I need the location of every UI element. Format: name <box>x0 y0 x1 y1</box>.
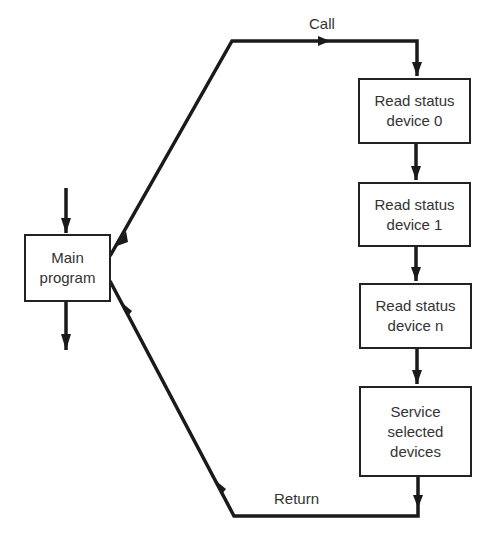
main-program-line-2: program <box>40 268 96 288</box>
return-arrow-head-down <box>413 495 423 508</box>
readn-line-2: device n <box>375 316 455 336</box>
service-line-3: devices <box>388 442 444 462</box>
call-arrow-head-top <box>318 36 330 46</box>
read1-line-2: device 1 <box>374 215 454 235</box>
return-label: Return <box>274 490 319 507</box>
call-arrow-head-down <box>412 62 422 76</box>
service-line-1: Service <box>388 402 444 422</box>
read1-line-1: Read status <box>374 195 454 215</box>
call-label: Call <box>309 15 335 32</box>
entry-arrow-head <box>61 218 71 233</box>
exit-arrow-head <box>61 334 71 350</box>
read0-line-1: Read status <box>374 91 454 111</box>
arrow-head-service <box>412 370 422 384</box>
main-program-box: Main program <box>24 234 111 302</box>
read0-line-2: device 0 <box>374 111 454 131</box>
arrow-head-read1 <box>411 166 421 180</box>
service-selected-devices-box: Service selected devices <box>359 386 472 477</box>
service-line-2: selected <box>388 422 444 442</box>
readn-line-1: Read status <box>375 296 455 316</box>
read-status-device-n-box: Read status device n <box>359 283 472 349</box>
read-status-device-0-box: Read status device 0 <box>358 78 471 144</box>
main-program-line-1: Main <box>40 248 96 268</box>
read-status-device-1-box: Read status device 1 <box>358 182 471 247</box>
arrow-head-readn <box>411 267 421 281</box>
